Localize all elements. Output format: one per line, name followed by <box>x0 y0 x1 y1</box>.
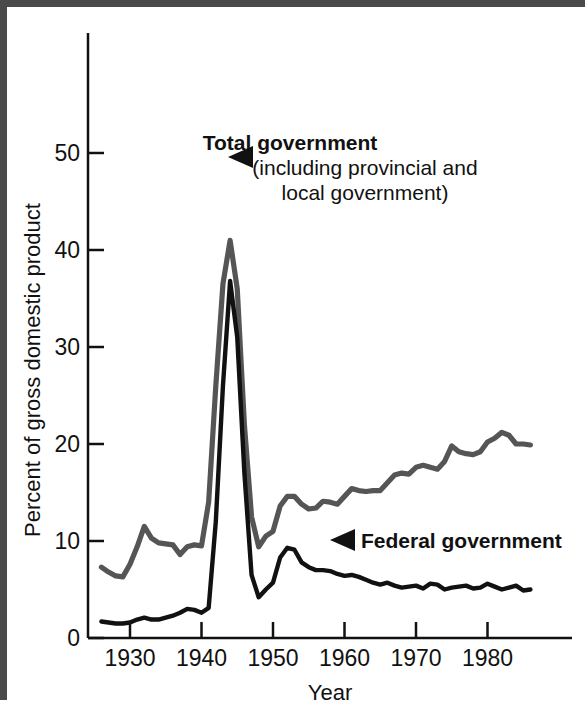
annotation-federal-government-line-1: Federal government <box>361 529 562 552</box>
x-axis-tick-label: 1940 <box>176 645 227 671</box>
y-axis-tick-label: 10 <box>54 528 80 554</box>
y-axis-tick-label: 30 <box>54 334 80 360</box>
y-axis-tick-label: 50 <box>54 140 80 166</box>
x-axis-tick-label: 1960 <box>319 645 370 671</box>
left-triangle-icon <box>330 529 355 551</box>
x-axis-tick-label: 1930 <box>104 645 155 671</box>
annotation-total-government-line-2: (including provincial and <box>252 156 477 179</box>
y-axis-tick-label: 40 <box>54 237 80 263</box>
annotation-federal-government: Federal government <box>330 529 562 552</box>
x-axis-tick-label: 1980 <box>462 645 513 671</box>
x-axis-title: Year <box>308 680 352 705</box>
x-axis-ticks <box>130 622 488 638</box>
annotation-total-government-line-3: local government) <box>282 181 449 204</box>
series-line-total-government <box>101 240 530 577</box>
x-axis-tick-labels: 193019401950196019701980 <box>104 645 513 671</box>
y-axis-title: Percent of gross domestic product <box>20 203 45 537</box>
x-axis-tick-label: 1950 <box>247 645 298 671</box>
y-axis-tick-label: 20 <box>54 431 80 457</box>
annotation-total-government-line-1: Total government <box>203 131 378 154</box>
y-axis-tick-label: 0 <box>67 625 80 651</box>
annotation-total-government: Total government (including provincial a… <box>203 131 478 204</box>
y-axis-tick-labels: 01020304050 <box>54 140 80 651</box>
x-axis-tick-label: 1970 <box>390 645 441 671</box>
line-chart-plot: 01020304050 193019401950196019701980 Yea… <box>0 0 585 720</box>
chart-figure: 01020304050 193019401950196019701980 Yea… <box>0 0 585 720</box>
